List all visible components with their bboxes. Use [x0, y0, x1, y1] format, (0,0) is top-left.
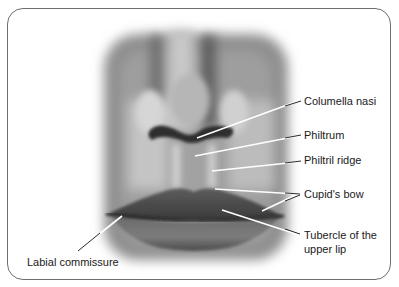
label-columella-nasi: Columella nasi — [304, 95, 376, 108]
label-tubercle-upper-lip-line2: upper lip — [304, 243, 346, 256]
label-cupids-bow: Cupid's bow — [304, 188, 364, 201]
label-tubercle-upper-lip-line1: Tubercle of the — [304, 229, 377, 242]
label-philtrum: Philtrum — [304, 129, 344, 142]
label-philtril-ridge: Philtril ridge — [304, 154, 361, 167]
label-labial-commissure: Labial commissure — [27, 256, 119, 269]
